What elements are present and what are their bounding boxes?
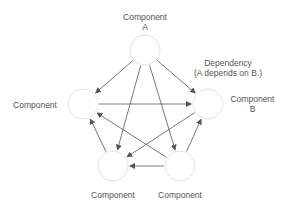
label-line: A <box>115 22 175 32</box>
node-label-bottom-right: Component <box>152 190 208 200</box>
node-label-left: Component <box>10 100 60 110</box>
component-node-b <box>193 89 223 119</box>
node-label-b: Component B <box>225 94 280 114</box>
dependency-arrow-bl-to-l <box>90 119 106 151</box>
label-line: Component <box>10 100 60 110</box>
component-node-br <box>165 151 195 181</box>
component-node-l <box>68 89 98 119</box>
label-line: B <box>225 104 280 114</box>
label-line: Component <box>115 12 175 22</box>
dependency-arrow-b-to-bl <box>127 113 194 157</box>
node-label-a: Component A <box>115 12 175 32</box>
annotation-line: (A depends on B.) <box>183 68 273 78</box>
nodes <box>68 35 223 181</box>
label-line: Component <box>85 190 141 200</box>
component-node-a <box>130 35 160 65</box>
dependency-arrow-br-to-l <box>97 113 166 157</box>
annotation-dependency: Dependency (A depends on B.) <box>183 58 273 78</box>
dependency-arrow-a-to-l <box>96 61 133 93</box>
dependency-arrow-a-to-br <box>150 65 175 149</box>
annotation-line: Dependency <box>183 58 273 68</box>
label-line: Component <box>225 94 280 104</box>
node-label-bottom-left: Component <box>85 190 141 200</box>
component-node-bl <box>98 151 128 181</box>
dependency-arrow-br-to-b <box>187 119 201 151</box>
label-line: Component <box>152 190 208 200</box>
dependency-arrow-a-to-bl <box>118 65 141 149</box>
